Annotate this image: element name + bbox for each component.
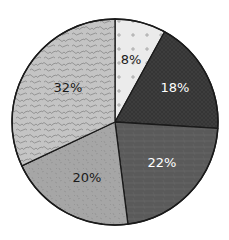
pie-chart: 8%18%22%20%32% (0, 0, 229, 240)
pie-slice-22pct (115, 122, 218, 224)
slice-label: 18% (161, 80, 190, 95)
slice-label: 8% (121, 52, 142, 67)
slice-label: 32% (54, 80, 83, 95)
pie-slices (12, 19, 218, 225)
slice-label: 20% (73, 170, 102, 185)
slice-label: 22% (148, 155, 177, 170)
